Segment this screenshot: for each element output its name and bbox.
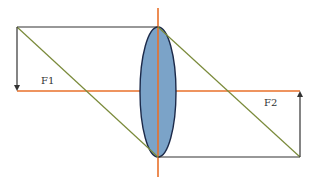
focus-label-f1: F1 xyxy=(41,75,54,86)
diagonal-ray-right xyxy=(158,27,300,157)
image-arrowhead-icon xyxy=(297,91,303,97)
lens-ray-diagram xyxy=(0,0,313,184)
object-arrowhead-icon xyxy=(14,85,20,91)
focus-label-f2: F2 xyxy=(264,97,277,108)
diagonal-ray-left xyxy=(17,27,158,157)
